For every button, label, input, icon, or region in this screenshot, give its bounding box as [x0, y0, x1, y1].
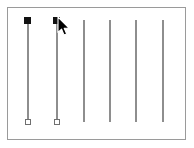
slider-track-line-4[interactable] — [109, 20, 111, 122]
slider-track-line-5[interactable] — [135, 20, 137, 122]
app-root — [0, 0, 194, 148]
slider-2-top-handle[interactable] — [53, 17, 60, 24]
slider-panel — [7, 7, 186, 140]
slider-1-bottom-handle[interactable] — [25, 119, 31, 125]
slider-track-line-1[interactable] — [27, 20, 29, 122]
slider-track-line-6[interactable] — [162, 20, 164, 122]
slider-track-line-3[interactable] — [83, 20, 85, 122]
slider-2-bottom-handle[interactable] — [54, 119, 60, 125]
slider-track-line-2[interactable] — [56, 20, 58, 122]
slider-1-top-handle[interactable] — [24, 17, 31, 24]
